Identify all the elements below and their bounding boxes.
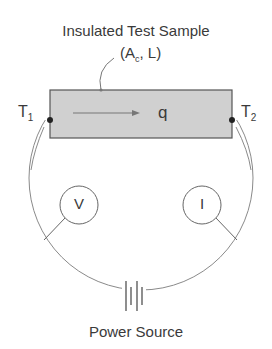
ammeter-lead: [216, 218, 237, 240]
battery-icon: [122, 281, 146, 311]
test-sample: [50, 90, 232, 138]
terminal-dot-t2: [229, 117, 235, 123]
voltmeter-lead: [44, 218, 65, 240]
params-close: , L): [140, 44, 162, 61]
terminal-label-t2: T2: [241, 103, 256, 123]
power-source-label: Power Source: [0, 323, 272, 340]
terminal-label-t1: T1: [18, 103, 33, 123]
terminal-dot-t1: [47, 117, 53, 123]
t1-letter: T: [18, 103, 28, 120]
heat-flow-label: q: [158, 103, 167, 123]
ammeter-label: I: [187, 195, 217, 212]
t2-sub: 2: [251, 112, 257, 123]
t2-letter: T: [241, 103, 251, 120]
t1-sub: 1: [28, 112, 34, 123]
params-open: (A: [120, 44, 135, 61]
sample-title: Insulated Test Sample: [0, 22, 272, 39]
sample-params: (Ac, L): [120, 44, 161, 64]
voltmeter-label: V: [64, 195, 94, 212]
